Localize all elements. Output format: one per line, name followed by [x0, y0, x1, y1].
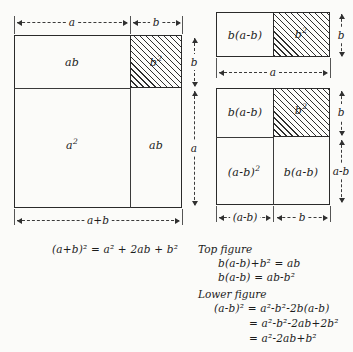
main-cell-a-squared-text: a [66, 139, 73, 152]
derivation-top-line-2: b(a-b) = ab-b² [218, 271, 295, 283]
extension-tick [216, 206, 217, 222]
extension-tick [14, 209, 15, 225]
derivation-lower-heading: Lower figure [198, 288, 267, 300]
lower-figure-horizontal-divider [216, 137, 274, 138]
top-figure-cell-b-a-minus-b: b(a-b) [228, 29, 263, 42]
extension-tick [130, 16, 131, 34]
lower-figure-dim-b-bottom-label: b [296, 211, 308, 223]
extension-tick [182, 209, 183, 225]
lower-figure-cell-a-minus-b-squared-exp: 2 [255, 164, 260, 173]
lower-figure-cell-b-a-minus-b-top: b(a-b) [228, 106, 263, 119]
derivation-top-heading: Top figure [198, 243, 252, 255]
top-figure-cell-b-a-minus-b-text: b(a-b) [228, 29, 263, 42]
top-figure-dim-a-label: a [267, 66, 278, 78]
diagram-canvas: a b ab b2 a2 ab b a a+b (a+b)² = a² + 2a… [0, 0, 353, 352]
lower-figure-dim-a-minus-b-bottom-label: (a-b) [230, 211, 260, 223]
extension-tick [182, 16, 183, 34]
derivation-lower-line-2: = a²-b²-2ab+2b² [249, 317, 339, 329]
lower-figure-dim-b-label: b [338, 104, 345, 120]
main-horizontal-divider [14, 88, 131, 89]
main-cell-a-squared: a2 [66, 139, 78, 152]
lower-figure-dim-a-minus-b-label: a-b [333, 163, 350, 179]
derivation-top-line-1: b(a-b)+b² = ab [218, 257, 300, 269]
main-cell-b-squared-exp: 2 [157, 54, 162, 63]
main-vertical-divider [130, 88, 131, 208]
main-cell-a-squared-exp: 2 [73, 137, 78, 146]
lower-figure-cell-b-a-minus-b-right: b(a-b) [284, 166, 319, 179]
main-cell-ab-top: ab [65, 56, 79, 69]
main-dim-a-top-label: a [66, 16, 77, 28]
main-cell-ab-right-text: ab [149, 139, 163, 152]
main-dim-a-plus-b-label: a+b [85, 214, 112, 226]
main-cell-ab-top-text: ab [65, 56, 79, 69]
extension-tick [14, 16, 15, 34]
lower-figure-cell-b-squared-exp: 2 [302, 102, 307, 111]
main-dim-b-top-label: b [150, 16, 162, 28]
lower-figure-cell-b-squared: b2 [295, 104, 307, 117]
top-figure-cell-b-squared-exp: 2 [302, 26, 307, 35]
lower-figure-cell-a-minus-b-squared: (a-b)2 [228, 166, 260, 179]
extension-tick [330, 206, 331, 222]
lower-figure-cell-b-a-minus-b-right-text: b(a-b) [284, 166, 319, 179]
extension-tick [273, 206, 274, 222]
main-equation-text: (a+b)² = a² + 2ab + b² [52, 243, 178, 255]
top-figure-cell-b-squared: b2 [295, 28, 307, 41]
derivation-lower-line-3: = a²-2ab+b² [249, 332, 317, 344]
main-dim-b-right-label: b [191, 54, 198, 70]
extension-tick [216, 58, 217, 78]
top-figure-dim-b-label: b [338, 27, 345, 43]
main-cell-b-squared: b2 [150, 56, 162, 69]
lower-figure-cell-a-minus-b-squared-text: (a-b) [228, 166, 255, 179]
main-dim-a-right-label: a [191, 140, 197, 156]
derivation-lower-line-1: (a-b)² = a²-b²-2b(a-b) [214, 302, 329, 314]
lower-figure-cell-b-a-minus-b-top-text: b(a-b) [228, 106, 263, 119]
extension-tick [330, 58, 331, 78]
main-equation: (a+b)² = a² + 2ab + b² [52, 243, 178, 255]
lower-figure-vertical-divider [273, 137, 274, 205]
main-cell-ab-right: ab [149, 139, 163, 152]
